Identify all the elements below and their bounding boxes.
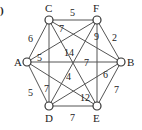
graph-svg: ) 5 6 7 7 14 2 5 9 4 7 5 12 7 6 7 bbox=[0, 0, 142, 130]
label-D: D bbox=[45, 112, 53, 124]
weight-A-B: 7 bbox=[84, 57, 89, 68]
weight-B-D: 6 bbox=[103, 69, 108, 80]
weight-F-E: 9 bbox=[94, 31, 99, 42]
node-E bbox=[93, 102, 101, 110]
weight-C-D: 7 bbox=[44, 83, 49, 94]
node-D bbox=[45, 102, 53, 110]
label-C: C bbox=[45, 2, 52, 14]
weight-F-D: 4 bbox=[66, 71, 71, 82]
edge-F-B bbox=[97, 20, 121, 62]
weight-C-A: 6 bbox=[28, 33, 33, 44]
label-F: F bbox=[93, 2, 99, 14]
weight-C-E: 14 bbox=[64, 47, 74, 58]
corner-mark: ) bbox=[0, 4, 4, 17]
weight-A-D: 5 bbox=[28, 87, 33, 98]
weighted-graph-diagram: ) 5 6 7 7 14 2 5 9 4 7 5 12 7 6 7 bbox=[0, 0, 142, 130]
node-C bbox=[45, 16, 53, 24]
weight-F-B: 2 bbox=[112, 32, 117, 43]
label-B: B bbox=[127, 56, 134, 68]
weight-A-E: 12 bbox=[80, 92, 90, 103]
label-E: E bbox=[93, 112, 100, 124]
weight-B-E: 7 bbox=[114, 84, 119, 95]
weight-D-E: 7 bbox=[70, 112, 75, 123]
label-A: A bbox=[14, 56, 22, 68]
weight-C-F: 5 bbox=[70, 7, 75, 18]
weight-C-B: 7 bbox=[59, 23, 64, 34]
node-F bbox=[93, 16, 101, 24]
node-B bbox=[117, 58, 125, 66]
weight-F-A: 5 bbox=[37, 52, 42, 63]
node-A bbox=[23, 58, 31, 66]
